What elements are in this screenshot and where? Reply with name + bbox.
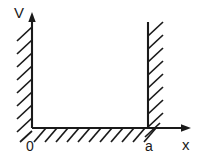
origin-label: 0 [26, 138, 34, 154]
x-axis-label: x [182, 136, 190, 153]
potential-well-diagram: V x 0 a [0, 0, 205, 160]
potential-well-figure: V x 0 a [0, 0, 205, 160]
v-axis-label: V [14, 4, 24, 21]
well-width-label: a [145, 138, 153, 154]
